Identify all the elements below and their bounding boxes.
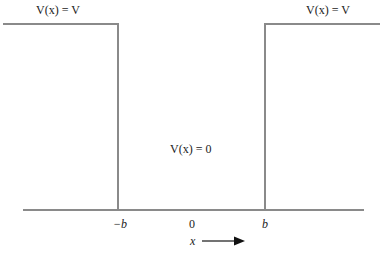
potential-well-diagram: V(x) = V V(x) = V V(x) = 0 −b 0 b x [0, 0, 380, 254]
right-region-label: V(x) = V [306, 3, 350, 17]
left-wall-line [117, 23, 119, 211]
tick-label-neg-b: −b [113, 217, 127, 231]
left-region-label: V(x) = V [36, 3, 80, 17]
x-axis-baseline [23, 209, 364, 211]
x-axis-label: x [190, 234, 195, 248]
center-region-label: V(x) = 0 [170, 142, 211, 156]
right-wall-line [264, 23, 266, 211]
tick-label-zero: 0 [189, 217, 195, 231]
right-arrow-icon [202, 236, 246, 246]
left-barrier-top-line [3, 23, 119, 25]
tick-label-b: b [262, 217, 268, 231]
right-barrier-top-line [264, 23, 380, 25]
